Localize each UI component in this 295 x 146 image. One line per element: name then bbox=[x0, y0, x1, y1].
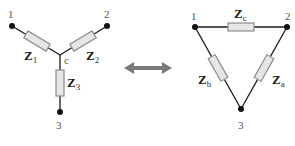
delta-node-3-label: 3 bbox=[238, 119, 244, 131]
delta-zc-label: Zc bbox=[234, 6, 247, 23]
wye-node-2-label: 2 bbox=[104, 8, 110, 20]
wye-node-1-label: 1 bbox=[8, 8, 14, 20]
wye-node-1 bbox=[9, 23, 15, 29]
delta-node-3 bbox=[238, 106, 244, 112]
wye-z1-label: Z1 bbox=[24, 48, 37, 65]
delta-resistor-zc bbox=[228, 23, 254, 31]
wye-node-3-label: 3 bbox=[56, 119, 62, 131]
wye-node-3 bbox=[57, 109, 63, 115]
delta-resistor-zb bbox=[208, 55, 228, 82]
delta-zb-label: Zb bbox=[198, 72, 212, 89]
wye-z3-label: Z3 bbox=[67, 75, 81, 92]
delta-node-1-label: 1 bbox=[191, 10, 197, 22]
wye-z2-label: Z2 bbox=[86, 48, 99, 65]
wye-resistor-z3 bbox=[56, 70, 64, 96]
delta-za-label: Za bbox=[272, 72, 285, 89]
wye-node-2 bbox=[104, 23, 110, 29]
delta-resistor-za bbox=[254, 55, 274, 82]
delta-node-2 bbox=[284, 24, 290, 30]
wye-delta-diagram: 1 2 3 c Z1 Z2 Z3 1 2 3 Zc Zb bbox=[0, 0, 295, 146]
delta-node-2-label: 2 bbox=[285, 10, 291, 22]
double-arrow-icon bbox=[124, 62, 172, 74]
wye-network: 1 2 3 c Z1 Z2 Z3 bbox=[8, 8, 110, 131]
wye-center-label: c bbox=[64, 54, 69, 66]
delta-node-1 bbox=[192, 24, 198, 30]
delta-network: 1 2 3 Zc Zb Za bbox=[191, 6, 291, 131]
